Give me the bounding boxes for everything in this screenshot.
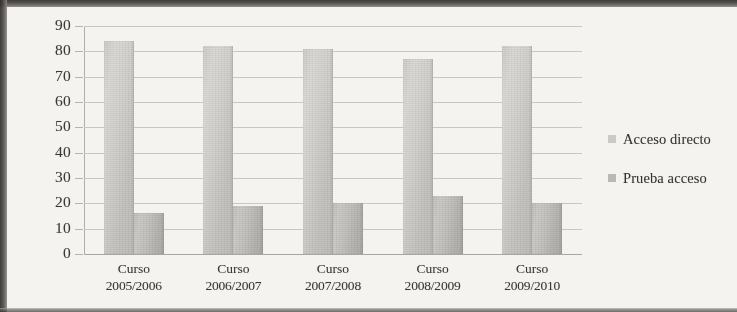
y-tick-label-70: 70 xyxy=(55,67,71,85)
y-tick-label-30: 30 xyxy=(55,168,71,186)
x-tick-label: Curso2008/2009 xyxy=(383,260,483,294)
y-tick-20 xyxy=(75,203,83,204)
y-tick-label-0: 0 xyxy=(63,244,71,262)
y-tick-label-40: 40 xyxy=(55,143,71,161)
plot-area: 9080706050403020100 xyxy=(84,26,582,254)
bar-group xyxy=(184,26,284,254)
page-border-bottom xyxy=(0,308,737,312)
y-tick-10 xyxy=(75,229,83,230)
x-tick-label: Curso2005/2006 xyxy=(84,260,184,294)
bar xyxy=(333,203,363,254)
bar-group xyxy=(84,26,184,254)
bar xyxy=(134,213,164,254)
x-tick-label-line1: Curso xyxy=(416,261,448,276)
y-tick-label-60: 60 xyxy=(55,92,71,110)
y-tick-label-80: 80 xyxy=(55,42,71,60)
legend-swatch-acceso-directo-icon xyxy=(608,135,616,143)
bar-group xyxy=(482,26,582,254)
y-tick-label-90: 90 xyxy=(55,16,71,34)
bar-group xyxy=(383,26,483,254)
legend-item-label: Prueba acceso xyxy=(623,170,707,187)
bar xyxy=(104,41,134,254)
x-tick-label-line1: Curso xyxy=(217,261,249,276)
bar-group xyxy=(283,26,383,254)
x-tick-label-line1: Curso xyxy=(118,261,150,276)
bar xyxy=(403,59,433,254)
y-tick-90 xyxy=(75,26,83,27)
y-tick-label-10: 10 xyxy=(55,219,71,237)
y-tick-label-50: 50 xyxy=(55,118,71,136)
x-tick-label-line1: Curso xyxy=(317,261,349,276)
page-border-top xyxy=(0,0,737,7)
legend-item: Prueba acceso xyxy=(608,170,733,187)
y-tick-30 xyxy=(75,178,83,179)
x-tick-label: Curso2009/2010 xyxy=(482,260,582,294)
bar-chart: 9080706050403020100 Curso2005/2006Curso2… xyxy=(24,14,599,294)
legend-item: Acceso directo xyxy=(608,131,733,148)
y-tick-80 xyxy=(75,51,83,52)
bar xyxy=(233,206,263,254)
y-tick-label-20: 20 xyxy=(55,194,71,212)
y-tick-40 xyxy=(75,153,83,154)
x-tick-label-line2: 2009/2010 xyxy=(482,277,582,294)
y-tick-70 xyxy=(75,77,83,78)
y-tick-0 xyxy=(75,254,83,255)
gridline-0 xyxy=(84,254,582,255)
x-axis-tick-labels: Curso2005/2006Curso2006/2007Curso2007/20… xyxy=(84,260,582,302)
legend-swatch-prueba-acceso-icon xyxy=(608,174,616,182)
scanned-page: 9080706050403020100 Curso2005/2006Curso2… xyxy=(0,0,737,312)
bar xyxy=(203,46,233,254)
chart-legend: Acceso directoPrueba acceso xyxy=(608,131,733,209)
x-tick-label-line2: 2006/2007 xyxy=(184,277,284,294)
y-tick-60 xyxy=(75,102,83,103)
x-tick-label: Curso2006/2007 xyxy=(184,260,284,294)
bar xyxy=(502,46,532,254)
x-tick-label-line2: 2007/2008 xyxy=(283,277,383,294)
x-tick-label-line1: Curso xyxy=(516,261,548,276)
page-border-left xyxy=(0,0,7,312)
bar xyxy=(303,49,333,254)
y-tick-50 xyxy=(75,127,83,128)
x-tick-label-line2: 2008/2009 xyxy=(383,277,483,294)
bar xyxy=(532,203,562,254)
bar xyxy=(433,196,463,254)
x-tick-label-line2: 2005/2006 xyxy=(84,277,184,294)
legend-item-label: Acceso directo xyxy=(623,131,711,148)
x-tick-label: Curso2007/2008 xyxy=(283,260,383,294)
